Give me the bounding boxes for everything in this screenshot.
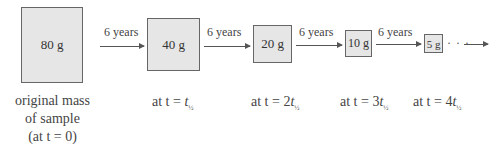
caption-t2: at t = 2t½ — [251, 93, 300, 117]
caption-line: (at t = 0) — [0, 128, 105, 146]
caption-line: of sample — [0, 110, 105, 128]
mass-label: 5 g — [427, 38, 441, 50]
mass-label: 80 g — [41, 37, 64, 53]
sample-box-5g: 5 g — [424, 34, 443, 53]
caption-original: original mass of sample (at t = 0) — [0, 92, 105, 146]
arrow-right-icon — [296, 45, 342, 46]
caption-t4: at t = 4t½ — [413, 93, 462, 117]
arrow-label: 6 years — [378, 25, 412, 40]
caption-line: original mass — [0, 92, 105, 110]
arrow-label: 6 years — [104, 25, 138, 40]
arrow-label: 6 years — [207, 25, 241, 40]
arrow-right-icon — [376, 44, 421, 45]
mass-label: 10 g — [348, 36, 369, 51]
sample-box-80g: 80 g — [21, 7, 83, 83]
sample-box-20g: 20 g — [253, 25, 292, 63]
sample-box-40g: 40 g — [147, 18, 200, 71]
arrow-right-icon — [204, 46, 250, 47]
sample-box-10g: 10 g — [345, 30, 372, 57]
arrow-right-icon — [464, 44, 488, 45]
arrow-label: 6 years — [299, 25, 333, 40]
caption-t1: at t = t½ — [152, 93, 194, 117]
caption-t3: at t = 3t½ — [340, 93, 389, 117]
arrow-right-icon — [100, 46, 144, 47]
mass-label: 40 g — [162, 37, 185, 53]
mass-label: 20 g — [261, 36, 284, 52]
